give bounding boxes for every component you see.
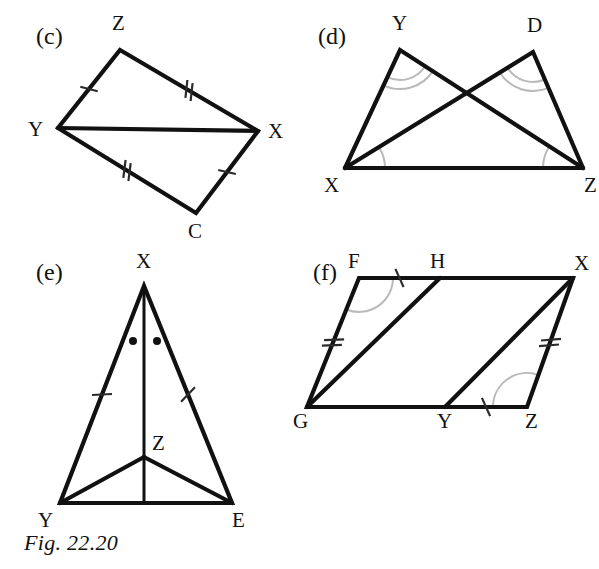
tick-mark bbox=[185, 80, 187, 98]
tick-mark bbox=[191, 83, 193, 101]
panel-d: (d) Y D X Z bbox=[318, 11, 597, 197]
panel-f-parallelogram-FXZG bbox=[307, 278, 573, 407]
panel-e-segment-ZY bbox=[60, 457, 144, 503]
panel-e-vertex-label-Z: Z bbox=[152, 431, 165, 455]
tick-mark bbox=[322, 345, 342, 346]
figure-caption: Fig. 22.20 bbox=[24, 530, 118, 556]
panel-f-vertex-label-H: H bbox=[430, 249, 445, 273]
panel-d-vertex-label-Y: Y bbox=[392, 11, 407, 35]
figure-container: (c) Z X C Y (d) Y D X Z (e) bbox=[0, 0, 599, 569]
panel-c-vertex-label-Z: Z bbox=[112, 11, 125, 35]
panel-c-vertex-label-Y: Y bbox=[28, 117, 43, 141]
panel-e-label: (e) bbox=[36, 259, 63, 285]
panel-e-vertex-label-X: X bbox=[136, 249, 151, 273]
panel-f-segment-YX bbox=[445, 278, 573, 407]
panel-f-tick-marks bbox=[322, 269, 561, 416]
panel-f-segment-GH bbox=[307, 278, 440, 407]
panel-d-vertex-label-Z: Z bbox=[584, 173, 597, 197]
panel-c: (c) Z X C Y bbox=[28, 11, 283, 243]
panel-c-vertex-label-C: C bbox=[188, 219, 202, 243]
panel-d-vertex-label-X: X bbox=[324, 173, 339, 197]
panel-e-segment-ZE bbox=[144, 457, 232, 503]
panel-e-vertex-label-E: E bbox=[232, 508, 245, 532]
tick-mark bbox=[539, 345, 559, 347]
panel-d-vertex-label-D: D bbox=[527, 13, 542, 37]
panel-f-vertex-label-F: F bbox=[348, 249, 360, 273]
panel-f-vertex-label-Z: Z bbox=[525, 409, 538, 433]
panel-f-vertex-label-Y: Y bbox=[437, 409, 452, 433]
panel-d-angle-arcs bbox=[379, 66, 549, 168]
angle-arc bbox=[543, 146, 549, 168]
tick-mark bbox=[128, 163, 130, 181]
angle-dot bbox=[129, 337, 137, 345]
panel-c-diagonal-YX bbox=[58, 128, 258, 131]
tick-mark bbox=[541, 339, 561, 341]
geometry-figure-svg: (c) Z X C Y (d) Y D X Z (e) bbox=[0, 0, 599, 569]
panel-c-vertex-label-X: X bbox=[268, 119, 283, 143]
panel-e: (e) X Z Y E bbox=[36, 249, 245, 532]
panel-e-vertex-label-Y: Y bbox=[38, 508, 53, 532]
panel-f: (f) F H X G Y Z bbox=[293, 249, 589, 433]
tick-mark bbox=[324, 339, 344, 340]
angle-dot bbox=[153, 337, 161, 345]
tick-mark bbox=[92, 394, 112, 395]
panel-f-vertex-label-G: G bbox=[293, 409, 308, 433]
panel-f-vertex-label-X: X bbox=[574, 251, 589, 275]
panel-f-label: (f) bbox=[313, 259, 337, 285]
panel-c-label: (c) bbox=[36, 23, 63, 49]
panel-d-label: (d) bbox=[318, 23, 346, 49]
tick-mark bbox=[123, 160, 125, 178]
panel-e-triangle-XYE bbox=[60, 286, 232, 503]
angle-arc bbox=[379, 147, 385, 168]
